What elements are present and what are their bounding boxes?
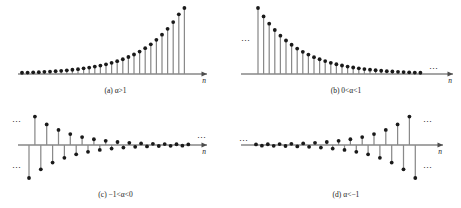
- stem-marker: [419, 71, 423, 75]
- stem-marker: [254, 143, 258, 147]
- stem-marker: [181, 144, 185, 148]
- stem-marker: [116, 140, 120, 144]
- stem-marker: [51, 161, 55, 165]
- stem-marker: [65, 68, 69, 72]
- stem-marker: [43, 70, 47, 74]
- stem-marker: [68, 132, 72, 136]
- panel-d-caption: (d) α<−1: [231, 190, 461, 199]
- stem-marker: [256, 6, 260, 10]
- stem-marker: [402, 70, 406, 74]
- stem-marker: [368, 68, 372, 72]
- stem-marker: [139, 142, 143, 146]
- stem-marker: [45, 122, 49, 126]
- stem-marker: [307, 53, 311, 57]
- stem-marker: [92, 137, 96, 141]
- stem-marker: [160, 33, 164, 37]
- stem-marker: [93, 65, 97, 69]
- stem-plot-figure: n (a) α>1 n⋯⋯ (b) 0<α<1 n⋯⋯⋯ (c) −1<α<0 …: [0, 0, 461, 208]
- stem-marker: [80, 135, 84, 139]
- stem-marker: [384, 128, 388, 132]
- panel-b-caption: (b) 0<α<1: [231, 86, 461, 95]
- stem-marker: [340, 64, 344, 68]
- stem-marker: [319, 146, 323, 150]
- stem-marker: [337, 139, 341, 143]
- stem-marker: [57, 128, 61, 132]
- stem-marker: [99, 64, 103, 68]
- stem-marker: [155, 38, 159, 42]
- stem-marker: [122, 146, 126, 150]
- panel-alpha-between-minus-one-and-zero: n⋯⋯⋯ (c) −1<α<0: [0, 104, 231, 208]
- stem-marker: [98, 148, 102, 152]
- stem-marker: [71, 68, 75, 72]
- stem-marker: [295, 47, 299, 51]
- stem-marker: [138, 50, 142, 54]
- stem-marker: [149, 42, 153, 46]
- stem-marker: [26, 71, 30, 75]
- left-ellipsis: ⋯: [239, 136, 249, 146]
- stem-marker: [157, 144, 161, 148]
- stem-marker: [82, 66, 86, 70]
- stem-marker: [301, 142, 305, 146]
- stem-marker: [143, 46, 147, 50]
- panel-alpha-greater-than-one: n (a) α>1: [0, 0, 231, 104]
- stem-marker: [163, 142, 167, 146]
- stem-marker: [27, 176, 31, 180]
- stem-marker: [363, 67, 367, 71]
- stem-marker: [76, 67, 80, 71]
- stem-marker: [110, 147, 114, 151]
- stem-marker: [349, 137, 353, 141]
- stem-marker: [63, 156, 67, 160]
- stem-marker: [323, 59, 327, 63]
- stem-marker: [166, 27, 170, 31]
- stem-marker: [313, 141, 317, 145]
- stem-marker: [145, 144, 149, 148]
- stem-marker: [266, 142, 270, 146]
- stem-marker: [402, 167, 406, 171]
- stem-marker: [110, 61, 114, 65]
- panel-a-caption: (a) α>1: [0, 86, 231, 95]
- stem-marker: [351, 66, 355, 70]
- stem-marker: [396, 70, 400, 74]
- stem-marker: [354, 150, 358, 154]
- stem-marker: [343, 148, 347, 152]
- axis-label-n: n: [202, 76, 206, 85]
- stem-marker: [379, 69, 383, 73]
- panel-b-plot: n⋯⋯: [231, 0, 461, 86]
- panel-alpha-between-zero-and-one: n⋯⋯ (b) 0<α<1: [231, 0, 461, 104]
- stem-marker: [307, 145, 311, 149]
- stem-marker: [413, 71, 417, 75]
- lower-ellipsis: ⋯: [12, 163, 22, 173]
- stem-marker: [372, 132, 376, 136]
- stem-marker: [318, 57, 322, 61]
- stem-marker: [267, 22, 271, 26]
- stem-marker: [104, 139, 108, 143]
- stem-marker: [151, 142, 155, 146]
- panel-alpha-less-than-minus-one: n⋯⋯⋯ (d) α<−1: [231, 104, 461, 208]
- stem-marker: [86, 150, 90, 154]
- stem-marker: [272, 144, 276, 148]
- stem-marker: [59, 69, 63, 73]
- stem-marker: [37, 70, 41, 74]
- stem-marker: [312, 55, 316, 59]
- right-ellipsis: ⋯: [429, 64, 439, 74]
- stem-marker: [133, 145, 137, 149]
- stem-marker: [301, 50, 305, 54]
- stem-marker: [126, 55, 130, 59]
- stem-marker: [408, 115, 412, 119]
- stem-marker: [325, 140, 329, 144]
- panel-c-plot: n⋯⋯⋯: [0, 104, 231, 190]
- upper-ellipsis: ⋯: [12, 117, 22, 127]
- right-ellipsis: ⋯: [197, 133, 207, 143]
- stem-marker: [273, 28, 277, 32]
- axis-label-n: n: [202, 147, 206, 156]
- stem-marker: [33, 115, 37, 119]
- stem-marker: [378, 156, 382, 160]
- stem-marker: [391, 70, 395, 74]
- axis-label-n: n: [448, 76, 452, 85]
- panel-c-caption: (c) −1<α<0: [0, 190, 231, 199]
- stem-marker: [331, 147, 335, 151]
- stem-marker: [357, 66, 361, 70]
- stem-marker: [374, 68, 378, 72]
- axis-label-n: n: [438, 147, 442, 156]
- stem-marker: [385, 69, 389, 73]
